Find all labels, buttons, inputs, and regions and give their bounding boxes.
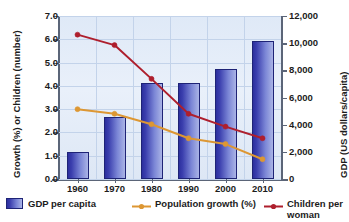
- right-axis-tick: [282, 125, 287, 126]
- line-series-layer: [59, 16, 281, 179]
- x-axis-tick-label: 1960: [58, 184, 98, 194]
- right-axis-tick: [282, 43, 287, 44]
- x-axis-tick-label: 1980: [132, 184, 172, 194]
- right-axis-tick-label: 2,000: [289, 147, 313, 157]
- right-axis-tick-label: 0: [289, 174, 294, 184]
- right-axis-tick-label: 6,000: [289, 93, 313, 103]
- left-axis-tick-label: 6.0: [45, 34, 58, 44]
- right-axis-title: GDP (US dollars/capita): [338, 72, 349, 178]
- left-axis-tick-label: 7.0: [45, 11, 58, 21]
- right-axis-tick-label: 10,000: [289, 38, 318, 48]
- right-axis-tick-label: 8,000: [289, 65, 313, 75]
- left-axis-tick-label: 0.0: [45, 174, 58, 184]
- data-point-marker: [260, 157, 265, 162]
- right-axis-tick: [282, 98, 287, 99]
- x-axis-tick-label: 2000: [206, 184, 246, 194]
- x-axis-tick-label: 1970: [95, 184, 135, 194]
- left-axis-tick-label: 5.0: [45, 58, 58, 68]
- right-axis-tick-label: 12,000: [289, 11, 318, 21]
- legend-label: GDP per capita: [28, 198, 96, 209]
- left-axis-tick-label: 2.0: [45, 127, 58, 137]
- gridline-horizontal: [59, 179, 281, 180]
- data-point-marker: [149, 76, 154, 81]
- data-point-marker: [112, 111, 117, 116]
- data-point-marker: [223, 124, 228, 129]
- legend-label: Population growth (%): [155, 198, 256, 209]
- data-point-marker: [75, 107, 80, 112]
- left-axis-tick-label: 4.0: [45, 81, 58, 91]
- legend-label: Children per woman: [287, 198, 343, 220]
- left-axis-tick-label: 1.0: [45, 151, 58, 161]
- data-point-marker: [75, 32, 80, 37]
- data-point-marker: [260, 136, 265, 141]
- right-axis-tick: [282, 70, 287, 71]
- left-axis-tick-label: 3.0: [45, 104, 58, 114]
- legend-swatch-line-marker: [264, 198, 283, 209]
- legend-swatch-gdp-per-capita: [6, 198, 23, 209]
- data-point-marker: [149, 122, 154, 127]
- line-children-per-woman: [78, 35, 263, 139]
- right-axis-tick: [282, 16, 287, 17]
- right-axis-tick: [282, 179, 287, 180]
- x-axis-tick-label: 2010: [243, 184, 283, 194]
- left-axis-title: Growth (%) or Children (number): [11, 30, 22, 178]
- right-axis-tick: [282, 152, 287, 153]
- chart-legend: GDP per capitaPopulation growth (%)Child…: [0, 195, 349, 222]
- data-point-marker: [186, 136, 191, 141]
- line-population-growth: [78, 109, 263, 159]
- x-axis-tick-label: 1990: [169, 184, 209, 194]
- data-point-marker: [223, 142, 228, 147]
- right-axis-tick-label: 4,000: [289, 120, 313, 130]
- chart-container: 0.01.02.03.04.05.06.07.0 02,0004,0006,00…: [0, 0, 349, 222]
- data-point-marker: [186, 111, 191, 116]
- data-point-marker: [112, 43, 117, 48]
- legend-swatch-line-marker: [132, 198, 151, 209]
